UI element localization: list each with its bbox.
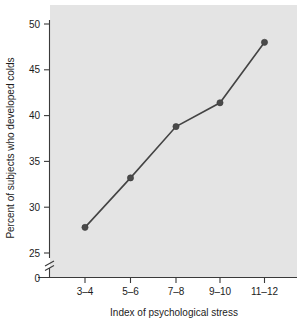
- x-tick-label-11-12: 11–12: [251, 286, 279, 297]
- line-chart: 50 45 40 35 30 25 0 3–4 5–6 7–8 9–10 11–…: [0, 0, 307, 325]
- data-point: [82, 224, 88, 230]
- y-tick-label-40: 40: [29, 110, 41, 121]
- x-axis-ticks: [85, 278, 265, 284]
- y-tick-label-35: 35: [29, 156, 41, 167]
- data-point: [217, 100, 223, 106]
- data-point: [127, 175, 133, 181]
- y-axis-title: Percent of subjects who developed colds: [5, 57, 16, 238]
- y-axis-ticks: [44, 24, 50, 253]
- x-tick-label-7-8: 7–8: [168, 286, 185, 297]
- data-point: [173, 123, 179, 129]
- x-axis-title: Index of psychological stress: [110, 307, 238, 318]
- data-point: [261, 39, 267, 45]
- x-tick-label-9-10: 9–10: [209, 286, 232, 297]
- chart-container: 50 45 40 35 30 25 0 3–4 5–6 7–8 9–10 11–…: [0, 0, 307, 325]
- y-tick-label-30: 30: [29, 202, 41, 213]
- x-tick-label-3-4: 3–4: [77, 286, 94, 297]
- y-tick-label-45: 45: [29, 64, 41, 75]
- x-tick-label-5-6: 5–6: [122, 286, 139, 297]
- y-tick-label-50: 50: [29, 19, 41, 30]
- plot-area-background: [50, 5, 297, 277]
- y-tick-label-25: 25: [29, 248, 41, 259]
- y-tick-label-0: 0: [34, 273, 40, 284]
